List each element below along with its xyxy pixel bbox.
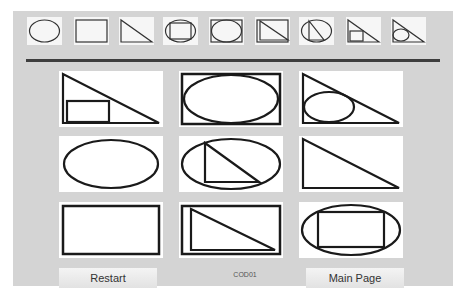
ellipse-in-triangle-icon: [391, 17, 426, 45]
option-rectangle[interactable]: [74, 17, 109, 45]
rect-in-triangle-icon: [59, 71, 163, 127]
triangle-in-ellipse-icon: [299, 17, 334, 45]
card-rectangle[interactable]: [59, 202, 163, 258]
card-triangle[interactable]: [299, 136, 403, 192]
restart-button[interactable]: Restart: [59, 268, 157, 288]
triangle-in-ellipse-icon: [179, 136, 283, 192]
card-ellipse-in-rect[interactable]: [179, 71, 283, 127]
triangle-in-rect-icon: [179, 202, 283, 258]
main-page-button[interactable]: Main Page: [306, 268, 404, 288]
ellipse-icon: [59, 136, 163, 192]
card-triangle-in-rect[interactable]: [179, 202, 283, 258]
option-triangle[interactable]: [119, 17, 154, 45]
rectangle-icon: [74, 17, 109, 45]
separator: [26, 59, 440, 62]
option-rect-in-ellipse[interactable]: [163, 17, 198, 45]
rect-in-triangle-icon: [346, 17, 381, 45]
rect-in-ellipse-icon: [299, 202, 403, 258]
rect-in-ellipse-icon: [163, 17, 198, 45]
option-ellipse[interactable]: [27, 17, 62, 45]
ellipse-in-rect-icon: [209, 17, 244, 45]
option-ellipse-in-triangle[interactable]: [391, 17, 426, 45]
game-panel: Restart COD01 Main Page: [13, 11, 453, 286]
option-triangle-in-ellipse[interactable]: [299, 17, 334, 45]
option-rect-in-triangle[interactable]: [346, 17, 381, 45]
rectangle-icon: [59, 202, 163, 258]
card-rect-in-ellipse[interactable]: [299, 202, 403, 258]
triangle-icon: [119, 17, 154, 45]
card-ellipse[interactable]: [59, 136, 163, 192]
level-code: COD01: [225, 271, 265, 278]
card-triangle-in-ellipse[interactable]: [179, 136, 283, 192]
ellipse-icon: [27, 17, 62, 45]
triangle-icon: [299, 136, 403, 192]
option-ellipse-in-rect[interactable]: [209, 17, 244, 45]
card-ellipse-in-triangle[interactable]: [299, 71, 403, 127]
option-triangle-in-rect[interactable]: [255, 17, 290, 45]
ellipse-in-rect-icon: [179, 71, 283, 127]
triangle-in-rect-icon: [255, 17, 290, 45]
card-rect-in-triangle[interactable]: [59, 71, 163, 127]
ellipse-in-triangle-icon: [299, 71, 403, 127]
